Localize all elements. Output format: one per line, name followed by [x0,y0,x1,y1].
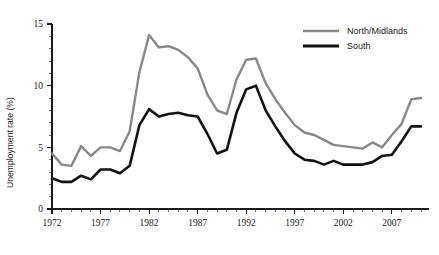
x-tick-label: 1992 [237,218,256,228]
y-tick-label: 15 [34,19,44,29]
y-tick-label: 5 [38,143,43,153]
y-tick-label: 10 [34,81,44,91]
legend-label: South [347,41,371,51]
x-axis-tick-labels: 19721977198219871992199720022007 [43,218,402,228]
x-tick-label: 2002 [334,218,353,228]
x-tick-label: 1972 [43,218,62,228]
chart-plot-area: 19721977198219871992199720022007 051015 … [0,0,439,255]
y-axis-tick-labels: 051015 [34,19,44,214]
y-axis-title: Unemployment rate (%) [5,97,15,188]
legend-label: North/Midlands [347,26,408,36]
chart-legend: North/MidlandsSouth [303,26,408,51]
axes-group [47,24,429,214]
y-tick-label: 0 [38,204,43,214]
x-tick-label: 1982 [140,218,159,228]
x-tick-label: 1987 [188,218,207,228]
series-line-north-midlands [52,35,421,166]
series-line-south [52,86,421,182]
x-tick-label: 1997 [285,218,304,228]
unemployment-rate-line-chart: 19721977198219871992199720022007 051015 … [0,0,439,255]
series-group [52,35,421,182]
x-tick-label: 1977 [91,218,110,228]
x-tick-label: 2007 [382,218,401,228]
